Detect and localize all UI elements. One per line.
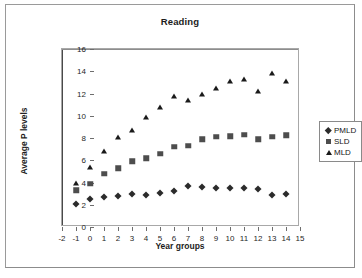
- data-point-mld: [241, 77, 247, 82]
- y-tick-mark: [90, 205, 94, 206]
- y-tick-mark: [90, 71, 94, 72]
- legend-label: PMLD: [334, 126, 356, 135]
- y-tick-mark: [90, 116, 94, 117]
- data-point-mld: [171, 93, 177, 98]
- data-point-pmld: [142, 191, 149, 198]
- x-tick-mark: [300, 227, 301, 231]
- data-point-mld: [157, 104, 163, 109]
- x-tick-mark: [258, 227, 259, 231]
- legend-item-mld[interactable]: MLD: [324, 147, 356, 158]
- y-tick-mark: [90, 138, 94, 139]
- data-point-pmld: [268, 191, 275, 198]
- data-point-pmld: [198, 183, 205, 190]
- data-point-sld: [115, 165, 121, 171]
- data-point-sld: [283, 132, 289, 138]
- diamond-marker-icon: [324, 128, 333, 133]
- data-point-pmld: [100, 193, 107, 200]
- x-tick-mark: [118, 227, 119, 231]
- data-point-sld: [171, 144, 177, 150]
- x-tick-label: 15: [291, 234, 309, 243]
- chart-legend: PMLDSLDMLD: [319, 121, 362, 162]
- data-point-mld: [199, 91, 205, 96]
- data-point-sld: [157, 151, 163, 157]
- y-tick-label: 0: [62, 223, 86, 232]
- data-point-mld: [227, 79, 233, 84]
- x-tick-mark: [76, 227, 77, 231]
- data-point-sld: [185, 143, 191, 149]
- data-point-pmld: [254, 186, 261, 193]
- data-point-sld: [143, 155, 149, 161]
- y-tick-mark: [90, 94, 94, 95]
- x-tick-mark: [90, 227, 91, 231]
- x-tick-mark: [62, 227, 63, 231]
- x-tick-mark: [244, 227, 245, 231]
- data-point-sld: [269, 134, 275, 140]
- x-tick-mark: [202, 227, 203, 231]
- data-point-mld: [87, 164, 93, 169]
- data-point-mld: [129, 128, 135, 133]
- data-point-sld: [241, 132, 247, 138]
- data-point-pmld: [212, 184, 219, 191]
- y-tick-label: 16: [62, 45, 86, 54]
- data-point-sld: [73, 188, 79, 194]
- x-tick-mark: [160, 227, 161, 231]
- data-point-sld: [227, 134, 233, 140]
- y-tick-label: 12: [62, 89, 86, 98]
- triangle-marker-icon: [324, 150, 333, 155]
- data-point-pmld: [86, 196, 93, 203]
- x-tick-mark: [286, 227, 287, 231]
- y-tick-label: 14: [62, 67, 86, 76]
- data-point-mld: [283, 79, 289, 84]
- legend-label: SLD: [334, 137, 350, 146]
- data-point-mld: [73, 180, 79, 185]
- x-tick-mark: [146, 227, 147, 231]
- legend-label: MLD: [334, 148, 351, 157]
- x-tick-mark: [174, 227, 175, 231]
- data-point-sld: [255, 136, 261, 142]
- data-point-sld: [101, 171, 107, 177]
- x-tick-mark: [272, 227, 273, 231]
- data-point-mld: [101, 149, 107, 154]
- y-axis-title-text: Average P levels: [19, 107, 29, 174]
- x-tick-mark: [216, 227, 217, 231]
- data-point-sld: [213, 134, 219, 140]
- data-point-pmld: [240, 185, 247, 192]
- data-point-pmld: [184, 182, 191, 189]
- legend-item-pmld[interactable]: PMLD: [324, 125, 356, 136]
- x-tick-mark: [104, 227, 105, 231]
- data-point-mld: [213, 85, 219, 90]
- y-tick-label: 6: [62, 156, 86, 165]
- x-tick-mark: [230, 227, 231, 231]
- data-point-mld: [269, 71, 275, 76]
- data-point-mld: [255, 89, 261, 94]
- y-tick-label: 8: [62, 134, 86, 143]
- data-point-pmld: [282, 190, 289, 197]
- data-point-sld: [87, 181, 93, 187]
- y-tick-mark: [90, 49, 94, 50]
- data-point-mld: [143, 114, 149, 119]
- data-point-pmld: [170, 188, 177, 195]
- data-point-pmld: [156, 189, 163, 196]
- data-point-pmld: [128, 190, 135, 197]
- data-point-sld: [129, 159, 135, 165]
- y-axis-title: Average P levels: [17, 52, 31, 230]
- legend-item-sld[interactable]: SLD: [324, 136, 356, 147]
- plot-area: 0246810121416 -2-10123456789101112131415: [61, 48, 299, 226]
- data-point-mld: [115, 134, 121, 139]
- x-tick-mark: [188, 227, 189, 231]
- y-tick-label: 10: [62, 111, 86, 120]
- square-marker-icon: [324, 139, 333, 144]
- data-point-sld: [199, 136, 205, 142]
- chart-title: Reading: [6, 16, 354, 27]
- y-tick-mark: [90, 160, 94, 161]
- data-point-pmld: [226, 184, 233, 191]
- x-axis-line: [62, 49, 298, 50]
- x-tick-mark: [132, 227, 133, 231]
- data-point-pmld: [114, 192, 121, 199]
- figure-frame: Reading Average P levels Year groups 024…: [5, 4, 355, 268]
- data-point-mld: [185, 98, 191, 103]
